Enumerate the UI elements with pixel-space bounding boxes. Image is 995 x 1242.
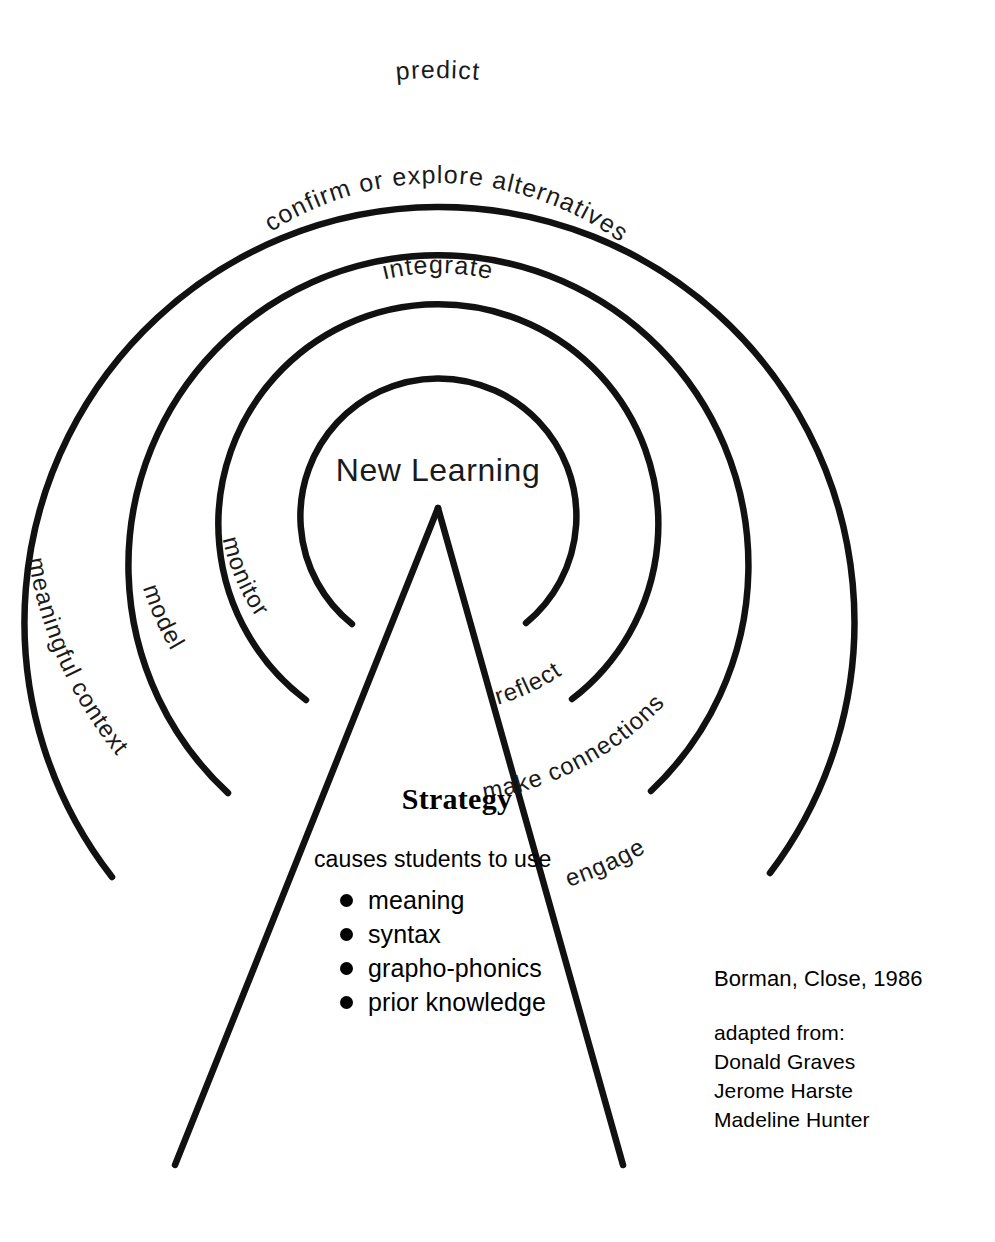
list-item-label: syntax [368,920,441,948]
list-item-label: grapho-phonics [368,954,542,982]
strategy-title: Strategy [292,782,622,816]
strategy-subtitle: causes students to use [292,846,622,873]
ring-outer-arc [24,207,854,877]
arc-label-model: model [138,580,191,654]
list-item: grapho-phonics [340,951,622,985]
credit-block: Borman, Close, 1986 adapted from: Donald… [714,966,974,1134]
diagram-canvas: New Learning predict confirm or explore … [0,0,995,1242]
list-item: prior knowledge [340,985,622,1019]
arc-label-reflect: reflect [491,656,565,710]
list-item-label: prior knowledge [368,988,546,1016]
bullet-icon [340,894,353,907]
credit-primary: Borman, Close, 1986 [714,966,974,992]
ring-inner-arc [300,378,576,624]
strategy-list: meaning syntax grapho-phonics prior know… [292,883,622,1019]
center-label: New Learning [336,452,541,488]
bullet-icon [340,928,353,941]
list-item-label: meaning [368,886,465,914]
ring-third-arc [218,304,658,700]
bullet-icon [340,962,353,975]
credit-adapted-label: adapted from: [714,1018,974,1047]
list-item: syntax [340,917,622,951]
arc-label-predict: predict [394,55,481,85]
credit-source: Madeline Hunter [714,1105,974,1134]
bullet-icon [340,996,353,1009]
credit-source: Donald Graves [714,1047,974,1076]
credit-source: Jerome Harste [714,1076,974,1105]
arc-label-integrate: integrate [379,250,496,284]
strategy-block: Strategy causes students to use meaning … [292,782,622,1019]
list-item: meaning [340,883,622,917]
